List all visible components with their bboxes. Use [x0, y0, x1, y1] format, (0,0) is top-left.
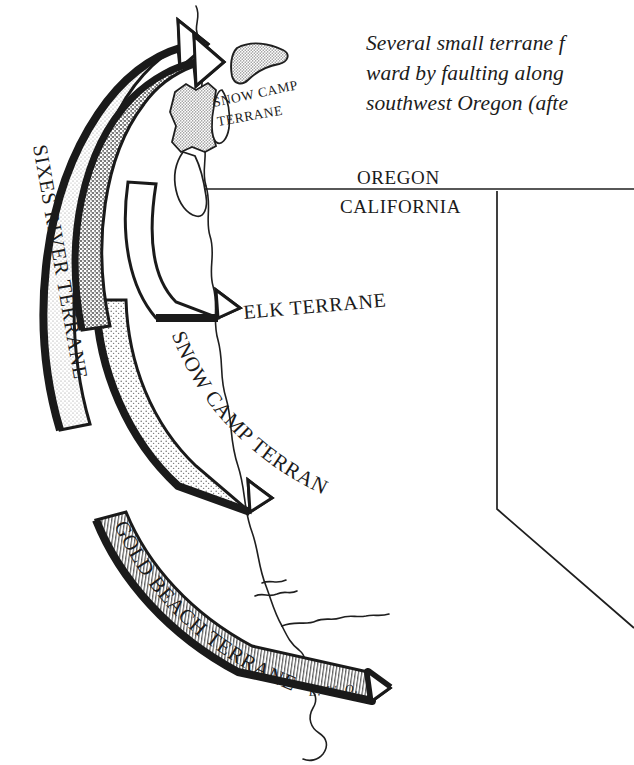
figure-caption: Several small terrane f ward by faulting…: [366, 28, 634, 118]
caption-line-2: ward by faulting along: [366, 58, 634, 88]
figure-canvas: SIXES RIVER TERRANE SNOW CAMP TERRANE EL…: [0, 0, 634, 765]
caption-line-3: southwest Oregon (afte: [366, 88, 634, 118]
caption-line-1: Several small terrane f: [366, 28, 634, 58]
state-label-oregon: OREGON: [357, 167, 440, 189]
state-label-california: CALIFORNIA: [340, 196, 461, 218]
